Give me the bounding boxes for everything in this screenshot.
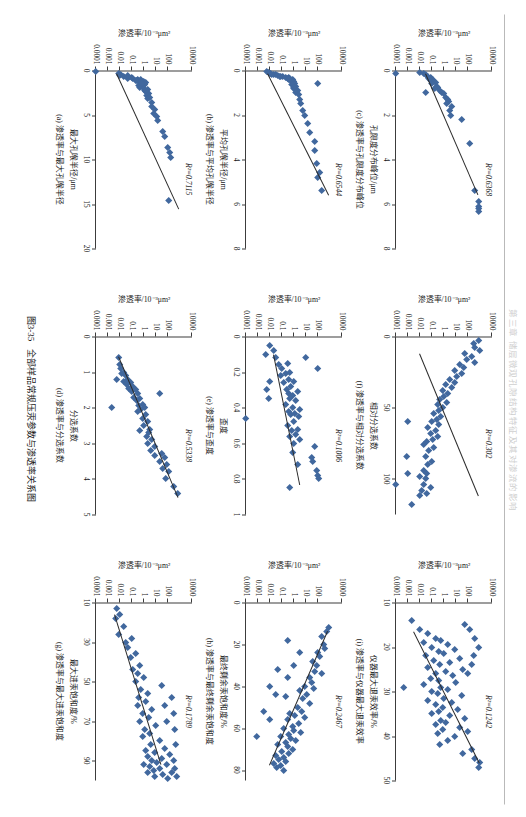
data-point xyxy=(444,686,450,692)
r-squared-label-a: R²=0.7115 xyxy=(184,163,193,195)
y-tick-label-i-7: 0.0001 xyxy=(392,576,401,596)
y-tick-label-f-4: 0.1 xyxy=(428,321,437,330)
x-tick-h-1 xyxy=(242,644,246,645)
data-point xyxy=(434,730,440,736)
y-tick-h-0 xyxy=(341,598,342,602)
data-point xyxy=(312,443,318,449)
data-point xyxy=(465,728,471,734)
x-axis-title-d: 分选系数 xyxy=(69,336,80,514)
y-axis-title-f: 渗透率/10⁻³μm² xyxy=(418,293,471,304)
panel-caption-f: (f) 渗透率与相对分选系数 xyxy=(355,316,366,534)
y-tick-a-6 xyxy=(107,66,108,70)
y-tick-i-2 xyxy=(455,598,456,602)
r-squared-label-e: R²=0.1006 xyxy=(334,429,343,462)
data-point xyxy=(168,154,174,160)
y-tick-g-2 xyxy=(155,598,156,602)
x-tick-label-h-2: 40 xyxy=(232,682,241,689)
data-point xyxy=(173,741,179,747)
data-point xyxy=(172,725,178,731)
data-point xyxy=(312,138,318,144)
y-axis-title-b: 渗透率/10⁻³μm² xyxy=(268,27,321,38)
data-point xyxy=(311,685,317,691)
x-tick-label-c-4: 8 xyxy=(382,246,391,250)
y-tick-label-i-4: 0.1 xyxy=(428,587,437,596)
x-tick-label-d-4: 4 xyxy=(82,477,91,481)
y-tick-label-e-5: 0.01 xyxy=(266,317,275,330)
running-head-rule xyxy=(504,14,505,804)
data-point xyxy=(450,672,456,678)
x-tick-a-4 xyxy=(92,248,96,249)
x-tick-h-0 xyxy=(242,602,246,603)
x-tick-label-g-0: 10 xyxy=(82,598,91,605)
y-tick-g-4 xyxy=(131,598,132,602)
y-tick-label-h-2: 10 xyxy=(302,589,311,596)
data-point xyxy=(152,773,158,779)
chart-panel-c: 100001001010.10.010.0010.000102468R²=0.6… xyxy=(350,12,498,270)
x-tick-label-a-1: 5 xyxy=(82,113,91,117)
data-point xyxy=(318,670,324,676)
data-point xyxy=(162,702,168,708)
y-tick-label-f-7: 0.0001 xyxy=(392,310,401,330)
x-tick-f-2 xyxy=(392,478,396,479)
x-tick-e-4 xyxy=(242,478,246,479)
y-tick-c-1 xyxy=(467,66,468,70)
x-tick-b-2 xyxy=(242,159,246,160)
chart-panel-h: 100001001010.10.010.0010.0001020406080R²… xyxy=(200,544,348,802)
y-tick-label-a-3: 1 xyxy=(140,60,149,64)
x-tick-i-2 xyxy=(392,691,396,692)
y-tick-label-d-6: 0.001 xyxy=(104,313,113,330)
data-point xyxy=(164,717,170,723)
x-tick-label-c-2: 4 xyxy=(382,157,391,161)
x-tick-e-0 xyxy=(242,336,246,337)
y-tick-label-i-6: 0.001 xyxy=(404,579,413,596)
y-tick-e-6 xyxy=(257,332,258,336)
r-squared-label-c: R²=0.6368 xyxy=(484,163,493,196)
panel-caption-b: (b) 渗透率与平均孔喉半径 xyxy=(205,50,216,268)
data-point xyxy=(425,630,431,636)
plot-area-c: 100001001010.10.010.0010.000102468R²=0.6… xyxy=(396,70,492,248)
y-tick-label-i-2: 10 xyxy=(452,589,461,596)
y-axis-title-c: 渗透率/10⁻³μm² xyxy=(418,27,471,38)
x-tick-label-f-2: 100 xyxy=(382,473,391,484)
scanned-page: 第三章 储层微观孔隙结构特征及其对渗流的影响 100001001010.10.0… xyxy=(0,0,526,817)
data-point xyxy=(164,761,170,767)
x-tick-label-c-0: 0 xyxy=(382,68,391,72)
data-point xyxy=(422,89,428,95)
y-tick-label-h-5: 0.01 xyxy=(266,583,275,596)
y-tick-g-1 xyxy=(167,598,168,602)
y-tick-label-g-1: 100 xyxy=(164,585,173,596)
y-tick-d-7 xyxy=(95,332,96,336)
data-point xyxy=(428,484,434,490)
chart-panel-f: 100001001010.10.010.0010.0001050100R²=0.… xyxy=(350,278,498,536)
x-tick-c-4 xyxy=(392,248,396,249)
x-tick-b-4 xyxy=(242,248,246,249)
data-point xyxy=(456,654,462,660)
data-point xyxy=(284,359,290,365)
x-tick-label-e-5: 1 xyxy=(232,512,241,516)
x-tick-i-0 xyxy=(392,602,396,603)
x-tick-label-b-0: 0 xyxy=(232,68,241,72)
y-tick-label-e-6: 0.001 xyxy=(254,313,263,330)
data-point xyxy=(298,729,304,735)
y-tick-e-7 xyxy=(245,332,246,336)
x-tick-label-b-2: 4 xyxy=(232,157,241,161)
data-point xyxy=(167,751,173,757)
y-tick-label-d-0: 10000 xyxy=(188,312,197,330)
y-tick-h-2 xyxy=(305,598,306,602)
y-tick-label-a-5: 0.01 xyxy=(116,51,125,64)
y-tick-label-d-2: 10 xyxy=(152,323,161,330)
y-tick-label-h-6: 0.001 xyxy=(254,579,263,596)
data-point xyxy=(170,757,176,763)
data-point xyxy=(312,147,318,153)
figure-caption: 图3-35全部样品常规压汞参数与渗透率关系图 xyxy=(25,0,38,817)
data-point xyxy=(408,501,414,507)
data-point xyxy=(462,714,468,720)
data-point xyxy=(315,365,321,371)
y-tick-h-3 xyxy=(293,598,294,602)
r-squared-label-i: R²=0.1242 xyxy=(484,695,493,728)
x-axis-title-g: 最大进汞饱和度/% xyxy=(69,602,80,780)
x-tick-e-2 xyxy=(242,407,246,408)
data-point xyxy=(428,674,434,680)
x-tick-g-3 xyxy=(92,721,96,722)
y-tick-b-4 xyxy=(281,66,282,70)
